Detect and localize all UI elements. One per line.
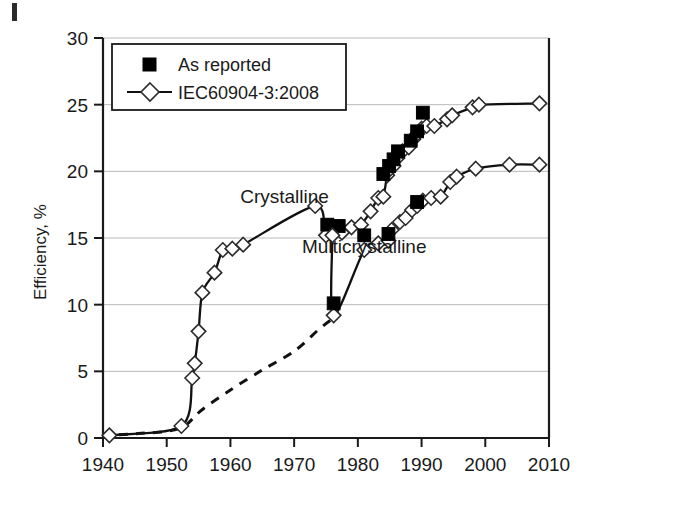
y-tick-label-0: 0 — [77, 428, 88, 449]
x-tick-label-1960: 1960 — [209, 454, 251, 475]
y-tick-label-5: 5 — [77, 361, 88, 382]
x-tick-label-1990: 1990 — [400, 454, 442, 475]
y-tick-label-25: 25 — [67, 95, 88, 116]
y-tick-label-20: 20 — [67, 161, 88, 182]
marker-square — [411, 196, 424, 209]
marker-square — [327, 297, 340, 310]
legend-label-as-reported: As reported — [178, 55, 271, 75]
legend-label-iec: IEC60904-3:2008 — [178, 83, 319, 103]
legend-marker-filled-square — [143, 58, 156, 71]
marker-square — [411, 125, 424, 138]
marker-square — [416, 106, 429, 119]
x-tick-label-1950: 1950 — [146, 454, 188, 475]
x-tick-label-1980: 1980 — [337, 454, 379, 475]
y-tick-label-15: 15 — [67, 228, 88, 249]
efficiency-chart: 19401950196019701980199020002010 0510152… — [0, 0, 678, 513]
x-tick-label-2010: 2010 — [528, 454, 570, 475]
annotation-multicrystalline: Multicrystalline — [302, 236, 427, 257]
x-tick-label-1970: 1970 — [273, 454, 315, 475]
x-tick-label-1940: 1940 — [82, 454, 124, 475]
y-tick-label-30: 30 — [67, 28, 88, 49]
page-edge-mark — [12, 3, 17, 21]
annotation-crystalline: Crystalline — [240, 186, 329, 207]
chart-legend: As reported IEC60904-3:2008 — [112, 44, 346, 110]
marker-square — [392, 145, 405, 158]
y-tick-label-10: 10 — [67, 295, 88, 316]
y-axis-title: Efficiency, % — [31, 204, 50, 300]
x-tick-label-2000: 2000 — [464, 454, 506, 475]
